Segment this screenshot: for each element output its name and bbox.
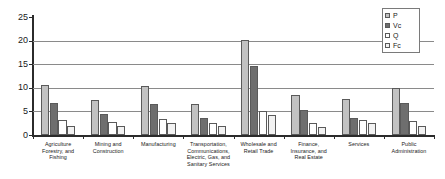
- legend-item[interactable]: Fc: [385, 41, 417, 50]
- x-axis-category-label-line: Transportation,: [183, 141, 233, 148]
- x-axis-category-label: AgricultureForestry, andFishing: [33, 141, 83, 161]
- bar: [342, 99, 350, 135]
- x-axis-category-label-line: Electric, Gas, and: [183, 154, 233, 161]
- bar: [100, 114, 108, 135]
- bar: [250, 66, 258, 135]
- y-axis-tick-label: 10: [0, 83, 28, 92]
- bar: [200, 118, 208, 135]
- bar: [209, 123, 217, 135]
- x-axis-tick-mark: [234, 135, 235, 139]
- bar-group: [141, 17, 176, 135]
- legend-label: Vc: [393, 22, 401, 29]
- bar: [309, 123, 317, 135]
- x-axis-category-label: Mining andConstruction: [83, 141, 133, 154]
- bar: [141, 86, 149, 135]
- bar: [418, 126, 426, 135]
- bar: [150, 104, 158, 135]
- bar-group: [342, 17, 377, 135]
- bar: [300, 110, 308, 135]
- x-axis-tick-mark: [83, 135, 84, 139]
- bar: [58, 120, 66, 135]
- bar: [268, 115, 276, 135]
- x-axis-category-label-line: Finance,: [284, 141, 334, 148]
- legend-swatch-icon: [385, 43, 390, 48]
- x-axis-category-label-line: Public: [384, 141, 434, 148]
- x-axis-category-label: Manufacturing: [133, 141, 183, 148]
- x-axis-category-label-line: Construction: [83, 148, 133, 155]
- x-axis-category-label: Transportation,Communications,Electric, …: [183, 141, 233, 167]
- bar: [191, 104, 199, 135]
- bar-group: [41, 17, 76, 135]
- bar-group: [91, 17, 126, 135]
- legend-item[interactable]: P: [385, 11, 417, 20]
- plot-area: [33, 17, 434, 135]
- bar: [167, 123, 175, 135]
- x-axis-category-label-line: Administration: [384, 148, 434, 155]
- x-axis-category-label-line: Forestry, and: [33, 148, 83, 155]
- x-axis-category-label-line: Insurance, and: [284, 148, 334, 155]
- grouped-bar-chart: 0510152025 AgricultureForestry, andFishi…: [0, 0, 445, 179]
- bar: [318, 127, 326, 135]
- bar: [108, 122, 116, 135]
- bar: [359, 120, 367, 135]
- x-axis-category-label: Wholesale andRetail Trade: [234, 141, 284, 154]
- legend-item[interactable]: Q: [385, 31, 417, 40]
- bar: [350, 118, 358, 135]
- bar: [67, 126, 75, 135]
- y-axis-tick-label: 20: [0, 36, 28, 45]
- x-axis-category-label-line: Sanitary Services: [183, 161, 233, 168]
- x-axis-category-label-line: Manufacturing: [133, 141, 183, 148]
- x-axis-tick-mark: [183, 135, 184, 139]
- x-axis-category-label: Finance,Insurance, andReal Estate: [284, 141, 334, 161]
- chart-legend: PVcQFc: [382, 8, 420, 53]
- bar-group: [241, 17, 276, 135]
- x-axis-category-label-line: Services: [334, 141, 384, 148]
- bar: [218, 126, 226, 135]
- y-axis-tick-label: 5: [0, 107, 28, 116]
- bar-group: [291, 17, 326, 135]
- bar: [392, 88, 400, 135]
- bar: [41, 85, 49, 135]
- bar: [291, 95, 299, 135]
- x-axis-tick-mark: [284, 135, 285, 139]
- legend-label: Q: [393, 32, 398, 39]
- legend-item[interactable]: Vc: [385, 21, 417, 30]
- x-axis-category-label-line: Real Estate: [284, 154, 334, 161]
- legend-swatch-icon: [385, 13, 390, 18]
- x-axis-tick-mark: [33, 135, 34, 139]
- y-axis-tick-label: 0: [0, 131, 28, 140]
- x-axis-category-label: Services: [334, 141, 384, 148]
- x-axis-tick-mark: [384, 135, 385, 139]
- bar: [117, 126, 125, 135]
- bar-group: [191, 17, 226, 135]
- x-axis-category-label-line: Agriculture: [33, 141, 83, 148]
- x-axis-category-label-line: Fishing: [33, 154, 83, 161]
- x-axis-category-label-line: Wholesale and: [234, 141, 284, 148]
- bar: [259, 111, 267, 135]
- legend-swatch-icon: [385, 33, 390, 38]
- x-axis-tick-mark: [133, 135, 134, 139]
- bar: [50, 103, 58, 135]
- x-axis-category-label-line: Retail Trade: [234, 148, 284, 155]
- bar: [159, 119, 167, 135]
- x-axis-category-label-line: Communications,: [183, 148, 233, 155]
- legend-label: Fc: [393, 42, 401, 49]
- bar: [91, 100, 99, 135]
- x-axis-category-label: PublicAdministration: [384, 141, 434, 154]
- bar: [241, 40, 249, 135]
- x-axis-tick-mark: [434, 135, 435, 139]
- x-axis-category-label-line: Mining and: [83, 141, 133, 148]
- x-axis-tick-mark: [334, 135, 335, 139]
- y-axis-tick-label: 15: [0, 60, 28, 69]
- legend-label: P: [393, 12, 398, 19]
- bar: [409, 121, 417, 135]
- legend-swatch-icon: [385, 23, 390, 28]
- y-axis-tick-label: 25: [0, 13, 28, 22]
- bar: [400, 103, 408, 135]
- bar: [368, 123, 376, 135]
